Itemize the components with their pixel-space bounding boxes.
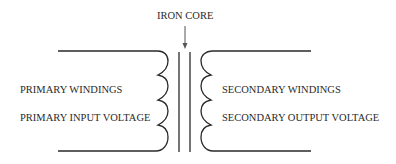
- transformer-diagram: IRON CORE PRIMARY WINDINGS PRIMARY INPUT…: [0, 0, 396, 164]
- primary-windings-label: PRIMARY WINDINGS: [20, 84, 123, 95]
- arrow-down-icon: [183, 26, 188, 49]
- secondary-output-voltage-label: SECONDARY OUTPUT VOLTAGE: [222, 112, 379, 123]
- iron-core: [179, 52, 190, 152]
- secondary-coil: [201, 51, 311, 151]
- primary-input-voltage-label: PRIMARY INPUT VOLTAGE: [20, 112, 150, 123]
- iron-core-label: IRON CORE: [157, 10, 213, 21]
- primary-coil: [58, 51, 168, 151]
- secondary-windings-label: SECONDARY WINDINGS: [222, 84, 341, 95]
